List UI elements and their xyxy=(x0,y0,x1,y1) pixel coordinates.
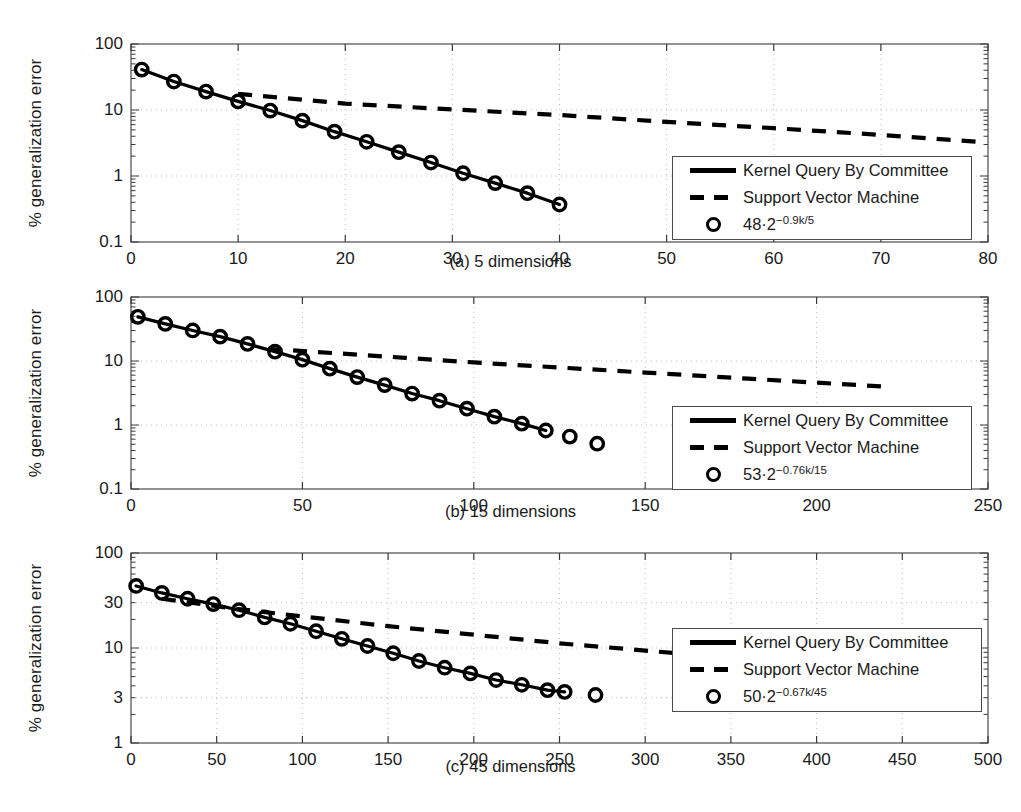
legend-item-svm: Support Vector Machine xyxy=(673,656,981,683)
theory-base: 50·2 xyxy=(743,687,776,705)
dashed-line-icon xyxy=(683,667,743,672)
legend-item-kqbc: Kernel Query By Committee xyxy=(673,629,981,656)
figure-root: % generalization error1001010.1010203040… xyxy=(0,0,1021,812)
panel-caption-c: (c) 45 dimensions xyxy=(0,757,1021,776)
legend-label-svm: Support Vector Machine xyxy=(743,660,919,679)
series-theory-marker xyxy=(589,689,601,701)
legend-item-theory: 50·2−0.67k/45 xyxy=(673,683,981,710)
solid-line-icon xyxy=(683,640,743,645)
legend-label-theory: 50·2−0.67k/45 xyxy=(743,687,827,706)
circle-marker-icon xyxy=(683,689,743,704)
legend-label-kqbc: Kernel Query By Committee xyxy=(743,633,948,652)
chart-legend: Kernel Query By CommitteeSupport Vector … xyxy=(672,628,982,712)
theory-exponent: −0.67k/45 xyxy=(776,686,827,698)
